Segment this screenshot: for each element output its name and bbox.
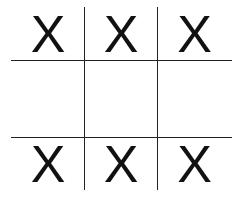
tic-tac-toe-board: X X X X X X: [0, 0, 242, 198]
cell-1-1[interactable]: [85, 61, 157, 137]
cell-0-1[interactable]: X: [85, 7, 157, 60]
cell-0-0[interactable]: X: [12, 7, 84, 60]
cell-1-0[interactable]: [12, 61, 84, 137]
cell-1-2[interactable]: [158, 61, 231, 137]
cell-2-1[interactable]: X: [85, 138, 157, 190]
cell-0-2[interactable]: X: [158, 7, 231, 60]
cell-2-2[interactable]: X: [158, 138, 231, 190]
cell-2-0[interactable]: X: [12, 138, 84, 190]
